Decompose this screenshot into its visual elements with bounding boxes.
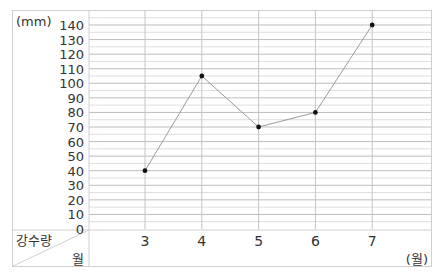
y-tick-label: 50 — [67, 149, 84, 164]
data-point — [256, 125, 261, 130]
y-tick-label: 80 — [67, 105, 84, 120]
data-point — [143, 168, 148, 173]
y-tick-label: 100 — [59, 76, 84, 91]
y-tick-label: 20 — [67, 193, 84, 208]
y-tick-label: 0 — [76, 222, 84, 237]
y-tick-label: 120 — [59, 47, 84, 62]
y-tick-label: 40 — [67, 164, 84, 179]
x-tick-label: 5 — [254, 233, 263, 249]
y-tick-label: 10 — [67, 207, 84, 222]
y-tick-label: 140 — [59, 18, 84, 33]
data-point — [313, 110, 318, 115]
y-tick-label: 110 — [59, 62, 84, 77]
x-unit-label: (월) — [406, 252, 428, 267]
corner-top-label: 강수량 — [16, 233, 52, 248]
y-tick-label: 60 — [67, 135, 84, 150]
y-tick-label: 130 — [59, 33, 84, 48]
x-tick-label: 3 — [141, 233, 150, 249]
y-tick-label: 70 — [67, 120, 84, 135]
x-tick-label: 6 — [311, 233, 320, 249]
x-tick-label: 4 — [197, 233, 206, 249]
data-point — [370, 23, 375, 28]
corner-bottom-label: 월 — [72, 252, 84, 267]
line-chart: 0102030405060708090100110120130140(mm)34… — [0, 0, 435, 278]
data-point — [199, 74, 204, 79]
y-tick-label: 90 — [67, 91, 84, 106]
x-tick-label: 7 — [368, 233, 377, 249]
y-unit-label: (mm) — [16, 14, 51, 29]
y-tick-label: 30 — [67, 178, 84, 193]
